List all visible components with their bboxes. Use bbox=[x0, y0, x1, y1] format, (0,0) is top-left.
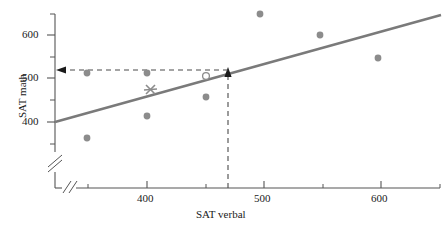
y-tick-label-600: 600 bbox=[22, 28, 39, 40]
open-circle-marker bbox=[203, 73, 210, 80]
x-tick-label-500: 500 bbox=[254, 192, 271, 204]
data-point bbox=[144, 113, 151, 120]
scatter-points bbox=[84, 11, 382, 142]
prediction-lines bbox=[56, 66, 232, 188]
x-tick-label-600: 600 bbox=[371, 192, 388, 204]
data-point bbox=[84, 70, 91, 77]
x-axis-label: SAT verbal bbox=[196, 208, 246, 220]
data-point bbox=[144, 70, 151, 77]
data-point bbox=[317, 32, 324, 39]
y-axis-label: SAT math bbox=[16, 74, 28, 118]
data-point bbox=[84, 135, 91, 142]
regression-line bbox=[55, 15, 441, 122]
x-tick-label-400: 400 bbox=[137, 192, 154, 204]
y-axis-break-icon bbox=[48, 155, 62, 172]
mean-marker-x-icon bbox=[144, 85, 157, 94]
prediction-left-arrowhead bbox=[56, 66, 66, 73]
y-axis bbox=[47, 14, 62, 188]
chart-figure: 600 500 400 400 500 600 SAT math SAT ver… bbox=[0, 0, 444, 226]
data-point bbox=[375, 55, 382, 62]
x-axis-break-icon bbox=[63, 181, 77, 193]
data-point bbox=[203, 94, 210, 101]
data-point bbox=[257, 11, 264, 18]
